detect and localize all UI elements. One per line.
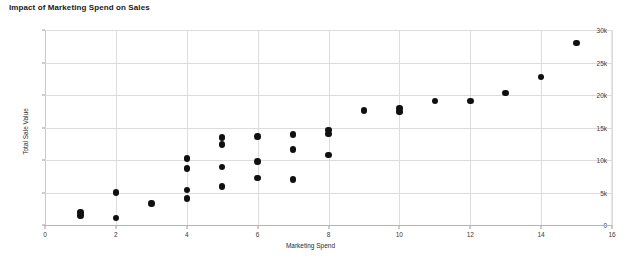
y-tick-label: 20k xyxy=(597,92,607,99)
y-axis-label: Total Sale Value xyxy=(22,102,29,162)
x-tick-label: 0 xyxy=(43,231,47,238)
data-point xyxy=(148,200,155,207)
y-tick-mark xyxy=(42,127,45,128)
y-tick-mark xyxy=(42,95,45,96)
data-point xyxy=(219,134,226,141)
y-tick-label: 10k xyxy=(597,157,607,164)
data-point xyxy=(184,187,191,194)
y-tick-label: 15k xyxy=(597,124,607,131)
data-point xyxy=(219,141,226,148)
data-point xyxy=(573,40,580,47)
x-gridline xyxy=(258,30,259,225)
data-point xyxy=(325,131,332,138)
y-tick-mark xyxy=(42,30,45,31)
plot-area: 05k10k15k20k25k30k0246810121416 xyxy=(45,30,612,225)
x-tick-label: 4 xyxy=(185,231,189,238)
data-point xyxy=(113,189,120,196)
chart-title: Impact of Marketing Spend on Sales xyxy=(9,3,150,12)
data-point xyxy=(361,107,368,114)
x-tick-label: 14 xyxy=(538,231,545,238)
data-point xyxy=(254,158,261,165)
y-tick-label: 25k xyxy=(597,59,607,66)
y-tick-mark xyxy=(42,62,45,63)
data-point xyxy=(77,212,84,219)
data-point xyxy=(184,165,191,172)
y-tick-mark xyxy=(42,192,45,193)
scatter-chart: Impact of Marketing Spend on Sales 05k10… xyxy=(0,0,621,259)
x-tick-label: 16 xyxy=(608,231,615,238)
y-tick-mark xyxy=(42,160,45,161)
data-point xyxy=(290,146,297,153)
x-axis-label: Marketing Spend xyxy=(0,242,621,249)
x-axis-line xyxy=(45,225,612,226)
x-gridline xyxy=(541,30,542,225)
x-tick-label: 10 xyxy=(396,231,403,238)
data-point xyxy=(396,109,403,116)
data-point xyxy=(432,98,439,105)
data-point xyxy=(467,98,474,105)
x-gridline xyxy=(116,30,117,225)
y-tick-label: 5k xyxy=(600,189,607,196)
x-tick-label: 2 xyxy=(114,231,118,238)
data-point xyxy=(184,195,191,202)
data-point xyxy=(325,152,332,159)
x-tick-label: 12 xyxy=(467,231,474,238)
data-point xyxy=(290,176,297,183)
x-gridline xyxy=(612,30,613,225)
x-gridline xyxy=(470,30,471,225)
x-tick-label: 8 xyxy=(327,231,331,238)
data-point xyxy=(184,155,191,162)
data-point xyxy=(254,133,261,140)
y-tick-label: 30k xyxy=(597,27,607,34)
x-gridline xyxy=(399,30,400,225)
x-tick-label: 6 xyxy=(256,231,260,238)
